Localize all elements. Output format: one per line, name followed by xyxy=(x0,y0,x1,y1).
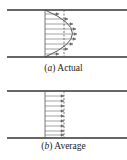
velocity-arrows xyxy=(45,13,77,55)
caption-actual: (a) Actual xyxy=(0,63,127,74)
parabolic-profile-curve xyxy=(45,10,73,57)
figure-average: (b) Average xyxy=(0,80,127,160)
figure-actual: (a) Actual xyxy=(0,0,127,80)
velocity-arrows xyxy=(45,95,64,136)
average-profile-diagram xyxy=(0,80,127,142)
caption-text: Actual xyxy=(55,63,82,73)
actual-profile-diagram xyxy=(0,0,127,62)
caption-average: (b) Average xyxy=(0,141,127,152)
caption-text: Average xyxy=(52,141,85,151)
